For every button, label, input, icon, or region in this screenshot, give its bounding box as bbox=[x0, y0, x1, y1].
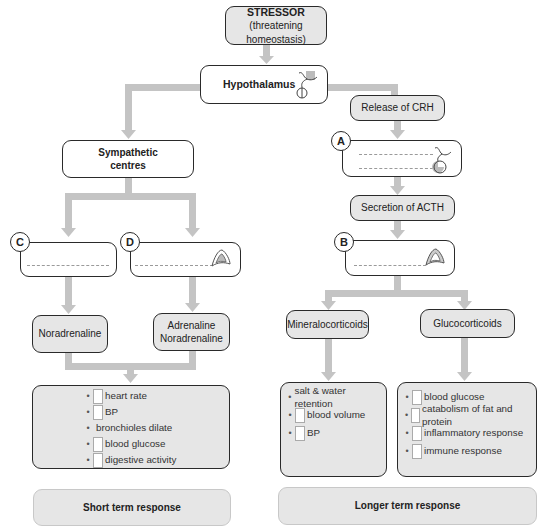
answer-line-d bbox=[135, 265, 213, 266]
answer-line-a1 bbox=[359, 154, 433, 155]
secretion-acth-label: Secretion of ACTH bbox=[361, 201, 444, 215]
pituitary-icon bbox=[431, 144, 453, 174]
hypothalamus-box: Hypothalamus bbox=[200, 65, 328, 104]
sympathetic-centres-box: Sympathetic centres bbox=[62, 140, 194, 178]
answer-checkbox[interactable] bbox=[93, 453, 103, 468]
answer-line-b bbox=[354, 265, 426, 266]
longer-term-response-label: Longer term response bbox=[355, 499, 461, 513]
answer-line-c bbox=[27, 265, 109, 266]
answer-checkbox[interactable] bbox=[93, 389, 103, 404]
effect-item: •salt & water retention bbox=[285, 388, 382, 406]
answer-line-a2 bbox=[359, 168, 433, 169]
marker-c: C bbox=[10, 232, 30, 252]
short-term-response-box: Short term response bbox=[33, 489, 231, 526]
mineralocorticoid-effects-box: •salt & water retention •blood volume •B… bbox=[280, 382, 387, 477]
effect-item: •blood glucose bbox=[83, 436, 176, 452]
answer-checkbox[interactable] bbox=[295, 426, 305, 441]
box-c bbox=[20, 242, 117, 277]
box-a bbox=[342, 140, 462, 177]
box-b bbox=[345, 240, 455, 276]
answer-checkbox[interactable] bbox=[412, 390, 422, 405]
adrenal-gland-icon bbox=[424, 247, 446, 267]
release-crh-label: Release of CRH bbox=[361, 101, 433, 115]
answer-checkbox[interactable] bbox=[295, 408, 305, 423]
mineralocorticoids-box: Mineralocorticoids bbox=[286, 310, 369, 339]
adrenaline-noradrenaline-box: Adrenaline Noradrenaline bbox=[153, 313, 230, 351]
stressor-subtitle: (threatening homeostasis) bbox=[226, 19, 326, 46]
marker-a: A bbox=[331, 131, 351, 151]
glucocorticoid-effects-list: •blood glucose •catabolism of fat and pr… bbox=[402, 388, 532, 460]
longer-term-response-box: Longer term response bbox=[278, 487, 537, 525]
marker-d: D bbox=[120, 232, 140, 252]
effect-item: •inflammatory response bbox=[402, 424, 532, 442]
answer-checkbox[interactable] bbox=[411, 408, 420, 423]
mineralocorticoids-label: Mineralocorticoids bbox=[287, 318, 368, 332]
effect-item: •heart rate bbox=[83, 388, 176, 404]
box-d bbox=[130, 242, 241, 277]
glucocorticoids-label: Glucocorticoids bbox=[433, 317, 501, 331]
mineralocorticoid-effects-list: •salt & water retention •blood volume •B… bbox=[285, 388, 382, 442]
hypothalamus-label: Hypothalamus bbox=[223, 77, 295, 91]
marker-b: B bbox=[334, 232, 354, 252]
noradrenaline-box: Noradrenaline bbox=[32, 315, 108, 353]
secretion-acth-box: Secretion of ACTH bbox=[350, 195, 455, 221]
effect-item: •BP bbox=[83, 404, 176, 420]
effect-item: •digestive activity bbox=[83, 452, 176, 468]
short-term-response-label: Short term response bbox=[83, 501, 181, 515]
effect-item: •immune response bbox=[402, 442, 532, 460]
adrenaline-label-line2: Noradrenaline bbox=[160, 332, 223, 346]
sympathetic-label-line1: Sympathetic bbox=[98, 146, 157, 160]
stressor-box: STRESSOR (threatening homeostasis) bbox=[225, 6, 327, 45]
answer-checkbox[interactable] bbox=[93, 437, 103, 452]
sympathetic-label-line2: centres bbox=[110, 159, 146, 173]
stressor-title: STRESSOR bbox=[247, 5, 305, 19]
short-term-effects-box: •heart rate •BP •bronchioles dilate •blo… bbox=[32, 385, 230, 469]
effect-item: •BP bbox=[285, 424, 382, 442]
brain-pituitary-icon bbox=[293, 69, 319, 101]
effect-item: •bronchioles dilate bbox=[83, 420, 176, 436]
short-term-effects-list: •heart rate •BP •bronchioles dilate •blo… bbox=[83, 388, 176, 468]
adrenal-gland-icon bbox=[210, 248, 232, 268]
release-crh-box: Release of CRH bbox=[350, 95, 445, 121]
glucocorticoid-effects-box: •blood glucose •catabolism of fat and pr… bbox=[397, 382, 537, 477]
adrenaline-label-line1: Adrenaline bbox=[168, 319, 216, 333]
effect-item: •catabolism of fat and protein bbox=[402, 406, 532, 424]
answer-checkbox[interactable] bbox=[412, 426, 422, 441]
answer-checkbox[interactable] bbox=[412, 444, 422, 459]
answer-checkbox[interactable] bbox=[93, 405, 103, 420]
noradrenaline-label: Noradrenaline bbox=[39, 327, 102, 341]
glucocorticoids-box: Glucocorticoids bbox=[420, 309, 515, 338]
